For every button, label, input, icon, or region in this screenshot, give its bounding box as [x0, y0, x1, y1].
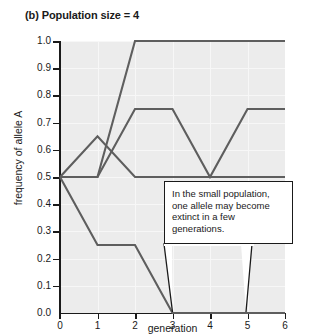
gridline-x-1 [98, 41, 99, 313]
y-tick-mark-0.2 [53, 259, 59, 261]
y-tick-mark-0.5 [53, 177, 59, 179]
x-tick-mark-0 [59, 313, 61, 319]
y-tick-label-0.4: 0.4 [37, 199, 51, 209]
annotation-callout: In the small population, one allele may … [164, 181, 293, 244]
y-tick-mark-0.6 [53, 150, 59, 152]
y-tick-label-0.2: 0.2 [37, 254, 51, 264]
y-tick-label-0.0: 0.0 [37, 308, 51, 318]
panel-title: (b) Population size = 4 [25, 9, 139, 21]
y-tick-mark-0.8 [53, 95, 59, 97]
y-tick-label-0.1: 0.1 [37, 281, 51, 291]
annotation-text: In the small population, one allele may … [172, 188, 270, 234]
y-tick-mark-0.9 [53, 68, 59, 70]
y-axis-line [59, 41, 61, 314]
y-tick-mark-0.7 [53, 123, 59, 125]
y-tick-mark-0.1 [53, 286, 59, 288]
figure-panel: (b) Population size = 4 1.0 0.9 0.8 0.7 … [0, 0, 313, 336]
gridline-x-3 [173, 41, 174, 313]
x-tick-mark-3 [173, 313, 175, 319]
y-axis-title: frequency of allele A [12, 93, 24, 223]
y-tick-mark-1.0 [53, 41, 59, 43]
x-tick-mark-5 [248, 313, 250, 319]
plot-area [60, 41, 285, 313]
gridline-x-2 [135, 41, 136, 313]
x-tick-mark-6 [285, 313, 287, 319]
y-tick-label-1.0: 1.0 [37, 36, 51, 46]
y-tick-label-0.5: 0.5 [37, 172, 51, 182]
y-tick-label-0.6: 0.6 [37, 145, 51, 155]
y-tick-label-0.7: 0.7 [37, 118, 51, 128]
x-axis-title: generation [60, 322, 285, 334]
x-tick-mark-2 [135, 313, 137, 319]
x-tick-mark-4 [210, 313, 212, 319]
y-tick-mark-0.3 [53, 231, 59, 233]
y-tick-label-0.9: 0.9 [37, 63, 51, 73]
y-tick-label-0.3: 0.3 [37, 226, 51, 236]
x-tick-mark-1 [98, 313, 100, 319]
y-tick-mark-0.4 [53, 204, 59, 206]
gridline-x-4 [210, 41, 211, 313]
y-tick-label-0.8: 0.8 [37, 90, 51, 100]
gridline-x-5 [248, 41, 249, 313]
